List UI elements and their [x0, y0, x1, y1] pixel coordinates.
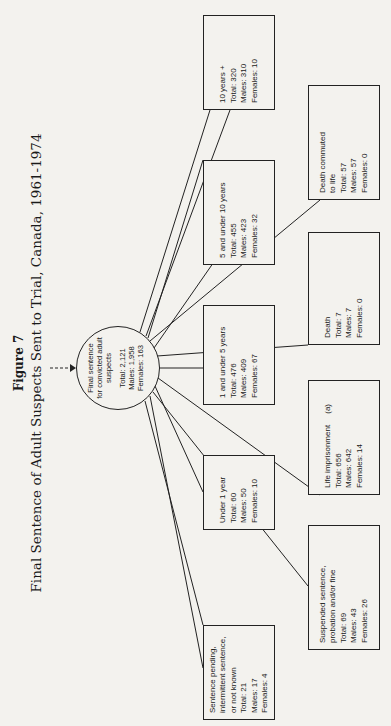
- node-males: Males: 642: [344, 387, 355, 488]
- node-females: Females: 10: [250, 462, 261, 523]
- node-total: Total: 320: [229, 22, 240, 103]
- root-label-line: for convicted adult: [95, 327, 104, 409]
- node-males: Males: 423: [239, 167, 250, 258]
- node-label: intermittent sentence,: [218, 632, 229, 713]
- node-1-to-5-years: 1 and under 5 years Total: 476 Males: 40…: [203, 305, 275, 405]
- node-label: probation and/or fine: [328, 532, 339, 643]
- node-males: Males: 43: [349, 532, 360, 643]
- node-label: 10 years +: [218, 22, 229, 103]
- node-females: Females: 67: [250, 312, 261, 398]
- node-label: Life imprisonment (a): [323, 387, 334, 488]
- node-label: 1 and under 5 years: [218, 312, 229, 398]
- node-total: Total: 60: [229, 462, 240, 523]
- node-death-commuted: Death commuted to life Total: 57 Males: …: [308, 85, 380, 200]
- connector-under1: [155, 386, 203, 492]
- root-total: Total: 2,121: [118, 327, 127, 409]
- node-females: Females: 4: [260, 632, 271, 713]
- node-females: Females: 0: [355, 239, 366, 338]
- connector-pending: [150, 396, 203, 668]
- node-label: 5 and under 10 years: [218, 167, 229, 258]
- node-total: Total: 21: [239, 632, 250, 713]
- node-label: Suspended sentence,: [318, 532, 329, 643]
- node-label: Under 1 year: [218, 462, 229, 523]
- connector-pending-2: [145, 401, 203, 625]
- node-females: Females: 14: [355, 387, 366, 488]
- node-label: Death: [323, 239, 334, 338]
- connector-10plus-2: [140, 110, 210, 332]
- node-males: Males: 50: [239, 462, 250, 523]
- node-females: Females: 32: [250, 167, 261, 258]
- node-total: Total: 57: [339, 92, 350, 193]
- node-males: Males: 7: [344, 239, 355, 338]
- root-node: Final sentence for convicted adult suspe…: [76, 326, 160, 410]
- node-total: Total: 69: [339, 532, 350, 643]
- node-life-imprisonment: Life imprisonment (a) Total: 656 Males: …: [308, 380, 380, 495]
- node-males: Males: 17: [250, 632, 261, 713]
- root-label-line: suspects: [104, 327, 113, 409]
- node-under-1-year: Under 1 year Total: 60 Males: 50 Females…: [203, 455, 275, 530]
- node-label: Sentence pending,: [208, 632, 219, 713]
- node-suspended-sentence: Suspended sentence, probation and/or fin…: [308, 525, 380, 650]
- node-total: Total: 455: [229, 167, 240, 258]
- root-females: Females: 163: [136, 327, 145, 409]
- node-10-years-plus: 10 years + Total: 320 Males: 310 Females…: [203, 15, 275, 110]
- node-males: Males: 409: [239, 312, 250, 398]
- node-death: Death Total: 7 Males: 7 Females: 0: [308, 232, 380, 345]
- node-females: Females: 26: [360, 532, 371, 643]
- node-males: Males: 310: [239, 22, 250, 103]
- node-label: to life: [328, 92, 339, 193]
- node-total: Total: 656: [334, 387, 345, 488]
- rotated-page: Figure 7 Final Sentence of Adult Suspect…: [0, 0, 391, 726]
- node-total: Total: 476: [229, 312, 240, 398]
- node-label: or not known: [229, 632, 240, 713]
- node-label: Death commuted: [318, 92, 329, 193]
- root-males: Males: 1,958: [127, 327, 136, 409]
- node-females: Females: 0: [360, 92, 371, 193]
- connector-5to10-2: [148, 160, 203, 338]
- node-females: Females: 10: [250, 22, 261, 103]
- node-sentence-pending: Sentence pending, intermittent sentence,…: [203, 625, 275, 720]
- node-5-to-10-years: 5 and under 10 years Total: 455 Males: 4…: [203, 160, 275, 265]
- node-total: Total: 7: [334, 239, 345, 338]
- node-males: Males: 57: [349, 92, 360, 193]
- root-label-line: Final sentence: [86, 327, 95, 409]
